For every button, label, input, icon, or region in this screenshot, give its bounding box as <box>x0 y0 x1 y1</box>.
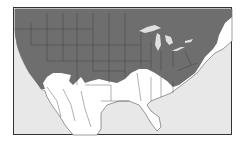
map-svg <box>1 1 244 145</box>
range-map <box>13 7 232 135</box>
